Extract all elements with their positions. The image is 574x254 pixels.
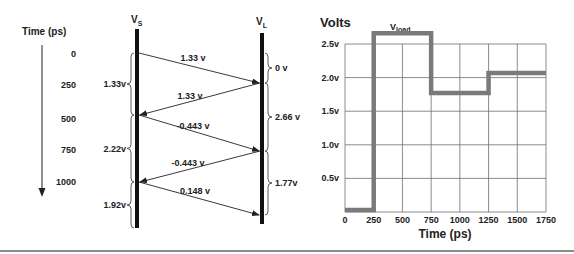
brace-icon [127, 53, 134, 115]
brace-icon [127, 182, 134, 228]
vload-chart: Volts Vload 0.5v1.0v1.5v2.0v2.5v 0250500… [320, 15, 556, 241]
x-axis-ticks: 02505007501000125015001750 [342, 215, 556, 225]
x-tick-label: 500 [395, 215, 410, 225]
source-voltage-label: 2.22v [103, 144, 126, 154]
brace-icon [265, 53, 272, 83]
wave-label: 1.33 v [180, 53, 205, 63]
load-voltage-label: 2.66 v [275, 112, 300, 122]
source-label: VS [131, 14, 143, 27]
x-tick-label: 1750 [536, 215, 556, 225]
wave-label: 1.33 v [177, 91, 202, 101]
wave-arrows: 1.33 v1.33 v-0.443 v-0.443 v0.148 v [139, 53, 260, 215]
load-voltage-label: 0 v [275, 63, 288, 73]
bottom-divider [0, 250, 574, 252]
brace-icon [265, 151, 272, 215]
brace-icon [265, 83, 272, 151]
y-tick-label: 2.0v [321, 73, 339, 83]
down-arrow-icon [39, 188, 46, 197]
time-tick-label: 1000 [56, 177, 76, 187]
y-tick-label: 1.0v [321, 140, 339, 150]
y-axis-ticks: 0.5v1.0v1.5v2.0v2.5v [321, 39, 339, 183]
x-tick-label: 750 [424, 215, 439, 225]
timeline-title: Time (ps) [22, 26, 66, 37]
y-tick-label: 1.5v [321, 106, 339, 116]
wave-label: 0.148 v [180, 186, 210, 196]
x-tick-label: 1000 [450, 215, 470, 225]
wave-label: -0.443 v [171, 158, 204, 168]
source-voltage-label: 1.92v [103, 200, 126, 210]
lattice-diagram: VS VL 1.33 v1.33 v-0.443 v-0.443 v0.148 … [103, 14, 300, 228]
x-tick-label: 1250 [479, 215, 499, 225]
x-axis-label: Time (ps) [418, 227, 471, 241]
load-line [260, 33, 264, 224]
x-tick-label: 1500 [507, 215, 527, 225]
vload-trace [345, 33, 546, 210]
time-tick-label: 0 [71, 49, 76, 59]
y-tick-label: 0.5v [321, 173, 339, 183]
load-label: VL [256, 16, 268, 29]
y-tick-label: 2.5v [321, 39, 339, 49]
figure: Time (ps) 02505007501000 VS VL 1.33 v1.3… [0, 0, 574, 254]
brace-icon [127, 115, 134, 182]
x-tick-label: 0 [342, 215, 347, 225]
source-voltage-label: 1.33v [103, 79, 126, 89]
time-ticks: 02505007501000 [56, 49, 76, 187]
wave-label: -0.443 v [176, 121, 209, 131]
load-voltage-braces: 0 v2.66 v1.77v [265, 53, 300, 215]
load-voltage-label: 1.77v [275, 178, 298, 188]
source-line [135, 29, 139, 228]
timeline: Time (ps) 02505007501000 [22, 26, 76, 197]
time-tick-label: 500 [61, 114, 76, 124]
chart-title: Volts [320, 15, 351, 30]
source-voltage-braces: 1.33v2.22v1.92v [103, 53, 134, 228]
time-tick-label: 750 [61, 145, 76, 155]
x-tick-label: 250 [366, 215, 381, 225]
time-tick-label: 250 [61, 80, 76, 90]
